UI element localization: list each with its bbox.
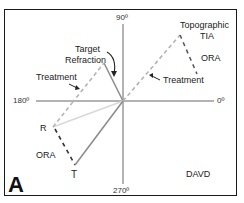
treatment-right-arrowhead bbox=[149, 73, 153, 78]
target-refraction-arrowhead bbox=[111, 71, 117, 77]
label-t: T bbox=[71, 170, 77, 180]
treatment-right-arrow bbox=[152, 76, 160, 80]
label-davd: DAVD bbox=[186, 169, 210, 179]
axis-label-0: 0º bbox=[217, 96, 224, 106]
treatment-left-arrowhead bbox=[75, 85, 80, 90]
axis-label-180: 180º bbox=[13, 96, 29, 106]
panel-letter: A bbox=[8, 174, 24, 196]
label-topographic: Topographic bbox=[180, 20, 229, 30]
label-ora-upper: ORA bbox=[201, 53, 221, 63]
label-treatment-right: Treatment bbox=[163, 75, 204, 85]
treatment-dashed-left bbox=[72, 63, 104, 103]
target-refraction-vector bbox=[104, 63, 123, 101]
topographic-tia-vector bbox=[123, 35, 180, 101]
label-refraction: Refraction bbox=[65, 55, 106, 65]
ora-lower-vector bbox=[55, 129, 75, 165]
label-ora-lower: ORA bbox=[36, 150, 56, 160]
ora-upper-vector bbox=[180, 35, 197, 74]
axis-label-90: 90º bbox=[116, 13, 128, 23]
label-target: Target bbox=[75, 44, 100, 54]
label-r: R bbox=[40, 123, 47, 133]
axis-label-270: 270º bbox=[113, 186, 129, 196]
label-tia: TIA bbox=[200, 31, 214, 41]
label-treatment-left: Treatment bbox=[36, 72, 77, 82]
